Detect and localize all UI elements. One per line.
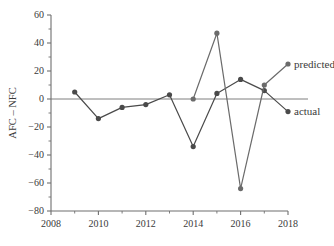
y-axis-tick-label: −40: [28, 149, 44, 160]
data-point-actual: [285, 109, 290, 114]
data-point-actual: [167, 92, 172, 97]
data-point-actual: [214, 91, 219, 96]
series-label-predicted: predicted: [294, 58, 334, 70]
x-axis-tick-label: 2018: [278, 218, 298, 229]
data-point-predicted: [262, 82, 267, 87]
data-point-predicted: [214, 31, 219, 36]
x-axis-tick-label: 2012: [136, 218, 156, 229]
x-axis-tick-label: 2016: [231, 218, 251, 229]
x-axis-tick-label: 2010: [88, 218, 108, 229]
y-axis-title: AFC – NFC: [7, 87, 18, 138]
axis-title-group: AFC – NFC: [7, 87, 18, 138]
x-axis-tick-label: 2008: [41, 218, 61, 229]
data-point-actual: [96, 116, 101, 121]
chart-background: [0, 0, 334, 246]
y-axis-tick-label: −20: [28, 121, 44, 132]
data-point-actual: [238, 77, 243, 82]
data-point-actual: [72, 89, 77, 94]
y-axis-tick-label: −60: [28, 177, 44, 188]
data-point-actual: [120, 105, 125, 110]
data-point-actual: [143, 102, 148, 107]
data-point-actual: [191, 144, 196, 149]
chart-container: 6040200−20−40−60−80 20082010201220142016…: [0, 0, 334, 246]
series-label-actual: actual: [294, 105, 320, 117]
data-point-predicted: [238, 186, 243, 191]
y-axis-tick-label: 40: [34, 37, 44, 48]
line-chart: 6040200−20−40−60−80 20082010201220142016…: [0, 0, 334, 246]
y-axis-tick-label: 60: [34, 9, 44, 20]
y-axis-tick-label: −80: [28, 205, 44, 216]
x-axis-tick-label: 2014: [183, 218, 203, 229]
y-axis-tick-label: 20: [34, 65, 44, 76]
data-point-predicted: [191, 96, 196, 101]
y-axis-tick-label: 0: [39, 93, 44, 104]
data-point-predicted: [285, 61, 290, 66]
